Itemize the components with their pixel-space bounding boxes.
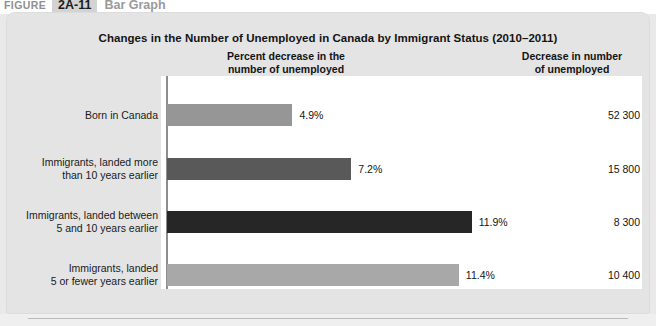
column-header-percent: Percent decrease in the number of unempl… [181, 50, 391, 76]
row-label: Born in Canada [0, 109, 158, 122]
table-row: Immigrants, landed between 5 and 10 year… [0, 211, 656, 233]
bar [167, 104, 292, 126]
figure-label: FIGURE [4, 0, 46, 11]
row-label-line1: Immigrants, landed between [0, 209, 158, 222]
row-label-line2: 5 and 10 years earlier [0, 222, 158, 235]
row-label-line2: 5 or fewer years earlier [0, 275, 158, 288]
row-label: Immigrants, landed more than 10 years ea… [0, 156, 158, 182]
row-label: Immigrants, landed 5 or fewer years earl… [0, 262, 158, 288]
chart-title: Changes in the Number of Unemployed in C… [6, 32, 650, 44]
row-label-line1: Immigrants, landed [0, 262, 158, 275]
row-label-line1: Born in Canada [0, 109, 158, 122]
bar-percent-label: 4.9% [299, 109, 323, 121]
bar [167, 264, 459, 286]
bar [167, 211, 472, 233]
figure-kind-label: Bar Graph [104, 0, 165, 12]
figure-screenshot: FIGURE 2A-11 Bar Graph Changes in the Nu… [0, 0, 656, 326]
footer-divider [28, 318, 628, 319]
row-count-value: 10 400 [500, 269, 640, 281]
column-header-count-line1: Decrease in number [494, 50, 650, 63]
row-label-line2: than 10 years earlier [0, 169, 158, 182]
footer-band [0, 314, 656, 326]
row-label: Immigrants, landed between 5 and 10 year… [0, 209, 158, 235]
column-header-percent-line2: number of unemployed [181, 63, 391, 76]
row-count-value: 15 800 [500, 163, 640, 175]
bar-percent-label: 7.2% [358, 163, 382, 175]
row-count-value: 52 300 [500, 109, 640, 121]
column-header-count: Decrease in number of unemployed [494, 50, 650, 76]
table-row: Immigrants, landed more than 10 years ea… [0, 158, 656, 180]
bar-percent-label: 11.4% [466, 269, 495, 281]
table-row: Immigrants, landed 5 or fewer years earl… [0, 264, 656, 286]
bar [167, 158, 351, 180]
table-row: Born in Canada 4.9% 52 300 [0, 104, 656, 126]
row-label-line1: Immigrants, landed more [0, 156, 158, 169]
row-count-value: 8 300 [500, 216, 640, 228]
column-header-count-line2: of unemployed [494, 63, 650, 76]
column-header-percent-line1: Percent decrease in the [181, 50, 391, 63]
